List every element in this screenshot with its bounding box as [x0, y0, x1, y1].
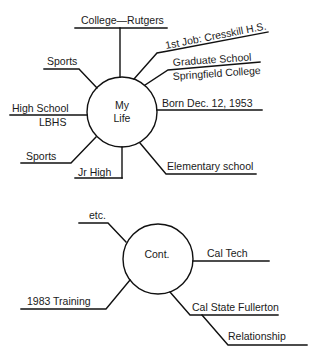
figure-caption-cutoff	[100, 356, 220, 363]
mind-map-my-life: My Life College—Rutgers 1st Job: Cresski…	[10, 14, 268, 178]
branch-label-college: College—Rutgers	[81, 14, 164, 26]
branch-label-training: 1983 Training	[27, 295, 91, 307]
branch-born: Born Dec. 12, 1953	[157, 97, 262, 110]
mind-map-diagram: My Life College—Rutgers 1st Job: Cresski…	[0, 0, 316, 363]
branch-college: College—Rutgers	[75, 14, 167, 77]
branch-label-cal-state: Cal State Fullerton	[192, 301, 279, 313]
branch-label-born: Born Dec. 12, 1953	[162, 97, 253, 109]
branch-elementary: Elementary school	[140, 143, 256, 174]
branch-label-etc: etc.	[89, 209, 106, 221]
mind-map-cont: Cont. etc. Cal Tech 1983 Training Cal St…	[21, 209, 307, 345]
branch-high-school: High School LBHS	[10, 102, 87, 128]
branch-graduate-school: Graduate School Springfield College	[145, 51, 261, 85]
branch-label-cal-tech: Cal Tech	[207, 247, 248, 259]
branch-sports-lower: Sports	[21, 137, 96, 163]
center-label-line1: My	[115, 99, 130, 111]
branch-label-jr-high: Jr High	[78, 166, 111, 178]
branch-label-high-school-2: LBHS	[39, 116, 66, 128]
branch-label-elementary: Elementary school	[167, 160, 253, 172]
branch-label-sports-lower: Sports	[26, 150, 56, 162]
branch-sports-upper: Sports	[44, 55, 97, 88]
branch-training: 1983 Training	[21, 280, 130, 309]
branch-etc: etc.	[79, 209, 126, 242]
center-label-line2: Life	[114, 112, 131, 124]
branch-label-high-school-1: High School	[12, 102, 69, 114]
branch-label-relationship: Relationship	[228, 330, 286, 342]
branch-cal-tech: Cal Tech	[193, 247, 269, 261]
center-label-cont: Cont.	[144, 248, 169, 260]
branch-cal-state: Cal State Fullerton	[170, 292, 279, 315]
branch-label-sports-upper: Sports	[47, 55, 77, 67]
branch-relationship: Relationship	[202, 315, 307, 345]
